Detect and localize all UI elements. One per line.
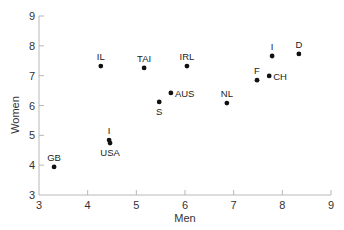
data-point: I [270,41,275,58]
point-marker [296,51,301,56]
point-label: NL [221,88,233,99]
data-point: IL [97,51,105,68]
data-point: I [107,125,112,142]
data-points: ILTAIIRLAUSSNLFCHIDIUSAGB [47,39,302,169]
point-label: IL [97,51,105,62]
point-marker [270,54,275,59]
scatter-chart: 34567893456789 ILTAIIRLAUSSNLFCHIDIUSAGB… [0,0,344,230]
data-point: NL [221,88,233,105]
point-marker [98,64,103,69]
data-point: USA [100,141,120,158]
point-label: S [156,106,162,117]
x-tick-label: 8 [279,199,285,211]
data-point: AUS [168,88,194,99]
point-label: AUS [175,88,195,99]
point-marker [52,165,57,170]
point-marker [185,64,190,69]
x-tick-label: 9 [328,199,334,211]
x-tick-label: 7 [231,199,237,211]
point-marker [224,101,229,106]
x-tick-label: 4 [85,199,91,211]
point-label: F [254,65,260,76]
point-label: TAI [137,53,151,64]
point-label: D [295,39,302,50]
point-marker [168,91,173,96]
data-point: F [254,65,260,82]
x-tick-label: 5 [133,199,139,211]
point-marker [267,74,272,79]
y-tick-label: 5 [29,129,35,141]
point-label: GB [47,152,61,163]
x-axis-title: Men [174,212,195,224]
point-label: USA [100,147,120,158]
y-tick-label: 3 [29,189,35,201]
x-tick-label: 3 [36,199,42,211]
data-point: CH [267,71,287,82]
point-label: I [271,41,274,52]
y-tick-label: 9 [29,10,35,22]
y-tick-label: 4 [29,159,35,171]
point-marker [157,100,162,105]
y-tick-label: 8 [29,40,35,52]
point-marker [142,66,147,71]
axes: 34567893456789 [29,10,334,211]
data-point: S [156,100,162,117]
data-point: IRL [180,51,195,68]
y-tick-label: 6 [29,100,35,112]
point-marker [255,78,260,83]
data-point: D [295,39,302,56]
point-label: CH [273,71,287,82]
x-tick-label: 6 [182,199,188,211]
point-marker [108,141,113,146]
y-axis-title: Women [9,96,21,134]
data-point: TAI [137,53,151,70]
y-tick-label: 7 [29,70,35,82]
point-label: I [108,125,111,136]
data-point: GB [47,152,61,169]
point-label: IRL [180,51,195,62]
